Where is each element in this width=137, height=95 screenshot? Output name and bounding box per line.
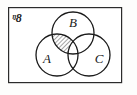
universal-set-symbol: ᵑ8 [12, 11, 22, 25]
set-label-b: B [69, 15, 77, 30]
venn-diagram-figure: ᵑ8 B A C [0, 0, 137, 95]
set-label-a: A [42, 51, 51, 66]
venn-diagram-canvas: ᵑ8 B A C [0, 0, 137, 95]
set-label-c: C [95, 51, 104, 66]
